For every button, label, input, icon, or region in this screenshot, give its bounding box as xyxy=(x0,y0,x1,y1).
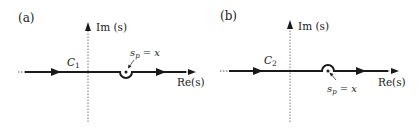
direction-arrow-icon xyxy=(253,67,263,75)
contour-label-a: C1 xyxy=(67,56,80,70)
pole-dot-a xyxy=(125,71,128,74)
direction-arrow-icon xyxy=(356,67,366,75)
imag-axis-arrow-icon xyxy=(287,20,293,29)
contour-diagram: (a) Im (s) C1 sp = x Re(s) (b) Im (s) C2 xyxy=(0,0,420,128)
contour-label-b: C2 xyxy=(264,54,277,68)
real-axis-label-b: Re(s) xyxy=(378,76,406,88)
imag-axis-label-a: Im (s) xyxy=(96,21,127,33)
panel-b: (b) Im (s) C2 sp = x Re(s) xyxy=(220,9,406,122)
panel-b-label: (b) xyxy=(220,9,237,23)
pole-dot-b xyxy=(327,70,330,73)
pointer-arrow-icon xyxy=(128,65,132,69)
real-axis-label-a: Re(s) xyxy=(177,76,205,88)
imag-axis-arrow-icon xyxy=(85,22,91,31)
direction-arrow-icon xyxy=(156,68,166,76)
pole-label-b: sp = x xyxy=(327,83,357,96)
contour-c2 xyxy=(229,65,388,71)
pole-label-a: sp = x xyxy=(130,47,160,60)
real-axis-arrow-icon xyxy=(391,68,399,74)
panel-a: (a) Im (s) C1 sp = x Re(s) xyxy=(18,11,205,122)
imag-axis-label-b: Im (s) xyxy=(298,20,329,32)
direction-arrow-icon xyxy=(51,68,61,76)
panel-a-label: (a) xyxy=(18,11,35,25)
real-axis-arrow-icon xyxy=(188,69,196,75)
